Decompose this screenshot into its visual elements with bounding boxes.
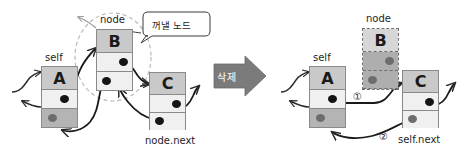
after-node-A-prev-cell (310, 109, 345, 127)
delete-transition-text: 삭제 (217, 69, 236, 84)
before-node-A: A (41, 66, 78, 128)
after-node-C: C (402, 70, 439, 128)
before-node-B-value: B (97, 30, 132, 53)
before-node-C-prev-dot (155, 117, 164, 125)
before-node-C-next-dot (172, 100, 181, 108)
after-node-A: A (309, 66, 346, 128)
callout-text: 꺼낼 노드 (152, 18, 191, 32)
after-node-C-prev-cell (403, 111, 438, 128)
before-node-A-prev-cell (42, 109, 77, 127)
delete-transition-label: 삭제 (212, 56, 268, 96)
before-node-A-next-dot (60, 95, 69, 103)
before-node-B-prev-cell (97, 72, 132, 90)
before-node-B: B (96, 29, 133, 91)
arrow-head-to-A (12, 72, 41, 92)
arrow-head-to-A-after (281, 72, 309, 92)
after-label-self: self (313, 53, 331, 63)
step-number-1: ① (353, 91, 362, 102)
after-node-B-next-dot (385, 57, 394, 65)
before-node-C: C (149, 72, 186, 130)
after-node-A-next-cell (310, 90, 345, 109)
after-node-C-prev-dot (408, 115, 417, 123)
after-node-A-next-dot (328, 95, 337, 103)
before-node-B-next-dot (119, 58, 128, 66)
after-node-C-value: C (403, 71, 438, 93)
arrow-A-prev-out-after (290, 101, 309, 107)
before-node-C-prev-cell (150, 113, 185, 130)
before-node-A-value: A (42, 67, 77, 90)
after-label-node: node (366, 14, 391, 24)
before-node-B-next-cell (97, 53, 132, 72)
diagram-canvas: A self B node C node.next 꺼낼 노드 삭제 (0, 0, 476, 157)
after-node-C-next-cell (403, 93, 438, 111)
before-node-C-value: C (150, 73, 185, 95)
arrow-A-prev-out (22, 101, 41, 107)
after-node-C-next-dot (425, 98, 434, 106)
after-node-B-removed: B (362, 28, 399, 90)
after-node-B-value: B (363, 29, 398, 52)
before-node-A-prev-dot (48, 114, 57, 122)
before-node-A-next-cell (42, 90, 77, 109)
before-node-C-next-cell (150, 95, 185, 113)
before-label-node: node (100, 15, 125, 25)
after-label-self-next: self.next (398, 135, 440, 145)
after-node-B-next-cell (363, 52, 398, 71)
step-number-2: ② (379, 131, 388, 142)
before-label-node-next: node.next (145, 136, 195, 146)
node-label-leader (78, 17, 96, 28)
after-node-A-value: A (310, 67, 345, 90)
after-node-B-prev-cell (363, 71, 398, 89)
before-label-self: self (45, 53, 63, 63)
before-node-B-prev-dot (102, 77, 111, 85)
after-node-A-prev-dot (316, 114, 325, 122)
after-node-B-prev-dot (368, 76, 377, 84)
